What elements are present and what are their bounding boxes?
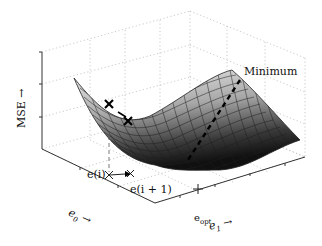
next-point-label: e(i + 1)	[130, 184, 172, 195]
mse-axis-label: MSE →	[16, 88, 27, 128]
e0-sub: 0	[72, 215, 79, 224]
mse-surface-diagram	[0, 0, 322, 246]
e1-sub: 1	[216, 225, 222, 234]
current-point-label: e(i)	[87, 169, 106, 180]
error-surface	[74, 70, 300, 177]
minimum-label: Minimum	[244, 66, 297, 77]
